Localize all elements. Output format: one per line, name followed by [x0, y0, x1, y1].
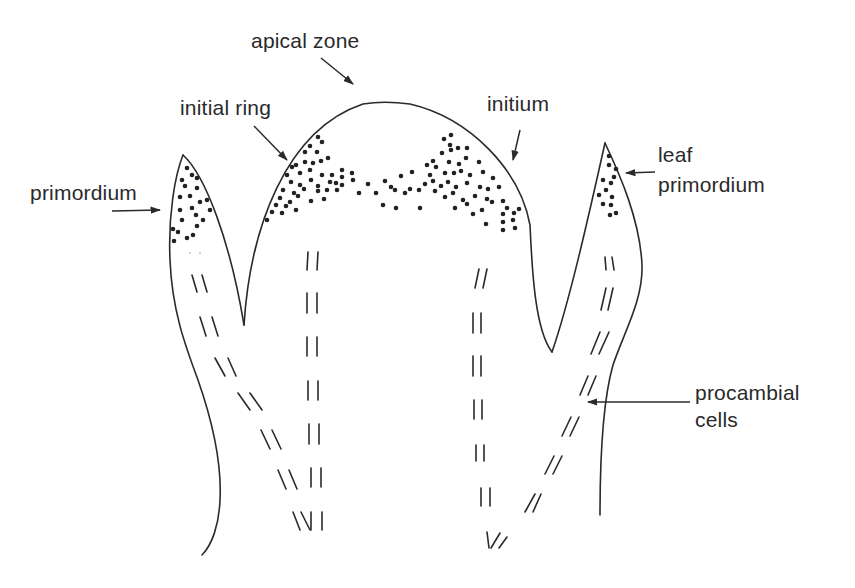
procambial-strand-left-diagonal [192, 275, 310, 530]
initium-arrow [513, 130, 520, 160]
label-leaf-primordium-line1: leaf [658, 142, 693, 168]
label-apical-zone: apical zone [251, 28, 359, 54]
meristem-diagram [0, 0, 855, 588]
label-primordium: primordium [30, 180, 137, 206]
label-procambial-line2: cells [695, 407, 738, 433]
label-leaf-primordium-line2: primordium [658, 172, 765, 198]
meristem-cell-dots [171, 133, 619, 244]
procambial-strand-left-vertical [307, 252, 322, 530]
apical-zone-arrow [321, 58, 353, 84]
right-primordium-inner-edge [552, 143, 605, 352]
label-initium: initium [487, 91, 549, 117]
right-primordium-outer-edge [600, 143, 642, 515]
label-initial-ring: initial ring [180, 95, 271, 121]
left-primordium-inner-edge [183, 155, 244, 325]
procambial-strands [192, 221, 614, 548]
apical-dome-outline [244, 103, 552, 353]
initial-ring-arrow [254, 126, 287, 160]
procambial-strand-right-vertical [473, 269, 507, 548]
label-procambial-line1: procambial [695, 380, 800, 406]
leaf-primordium-arrow [626, 172, 655, 173]
primordium-arrow [112, 210, 160, 211]
